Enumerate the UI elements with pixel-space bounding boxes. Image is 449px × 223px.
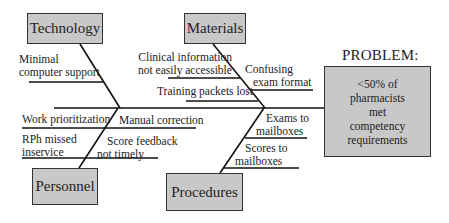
problem-heading: PROBLEM: [342, 47, 419, 64]
cause-line: Manual correction [119, 114, 204, 127]
cause-line: Scores to [235, 142, 287, 155]
cause-training-packets-lost: Training packets lost [157, 85, 253, 98]
cause-line: Training packets lost [157, 85, 253, 98]
cause-line: not easily accessible [128, 64, 232, 77]
cause-manual-correction: Manual correction [119, 114, 204, 127]
cause-line: Score feedback [97, 135, 178, 148]
problem-box: <50% of pharmacists met competency requi… [324, 66, 431, 157]
category-label: Procedures [171, 184, 238, 201]
category-technology: Technology [27, 13, 103, 44]
cause-line: not timely [97, 148, 178, 161]
cause-minimal-computer-support: Minimal computer support [19, 53, 100, 79]
cause-score-feedback: Score feedback not timely [97, 135, 178, 161]
category-procedures: Procedures [166, 173, 243, 211]
cause-line: computer support [19, 66, 100, 79]
category-label: Personnel [35, 178, 94, 195]
cause-line: Clinical information [128, 51, 232, 64]
cause-line: Work prioritization [22, 113, 110, 126]
cause-clinical-information: Clinical information not easily accessib… [128, 51, 232, 77]
fishbone-diagram: Technology Materials Personnel Procedure… [0, 0, 449, 223]
cause-work-prioritization: Work prioritization [22, 113, 110, 126]
cause-scores-to-mailboxes: Scores to mailboxes [235, 142, 287, 168]
category-materials: Materials [184, 13, 246, 44]
cause-line: Minimal [19, 53, 100, 66]
cause-line: inservice [22, 146, 77, 159]
problem-line: requirements [347, 133, 407, 147]
problem-line: competency [350, 119, 406, 133]
cause-line: RPh missed [22, 133, 77, 146]
cause-line: Exams to [256, 112, 309, 125]
cause-rph-missed-inservice: RPh missed inservice [22, 133, 77, 159]
category-personnel: Personnel [32, 168, 98, 205]
problem-line: pharmacists [350, 91, 405, 105]
cause-confusing-exam-format: Confusing exam format [245, 63, 311, 89]
cause-exams-to-mailboxes: Exams to mailboxes [256, 112, 309, 138]
problem-line: met [369, 105, 386, 119]
cause-line: exam format [245, 76, 311, 89]
cause-line: mailboxes [235, 155, 287, 168]
cause-line: mailboxes [256, 125, 309, 138]
problem-line: <50% of [357, 77, 397, 91]
category-label: Technology [30, 20, 101, 37]
category-label: Materials [187, 20, 244, 37]
cause-line: Confusing [245, 63, 311, 76]
